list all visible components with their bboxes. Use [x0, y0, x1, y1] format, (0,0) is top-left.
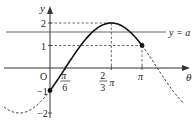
- y-tick-label-3: −2: [37, 108, 48, 119]
- x-tick-label-2pi3-num: 2: [100, 70, 105, 81]
- y-tick-label-1: 1: [41, 41, 46, 52]
- line-y-equals-a-label: y = a: [168, 27, 190, 38]
- y-axis-label: y: [39, 2, 45, 14]
- y-tick-label-0: 2: [41, 18, 46, 29]
- x-tick-label-pi6-den: 6: [62, 82, 67, 93]
- x-tick-label-pi6-num: π: [61, 70, 67, 81]
- x-tick-label-2pi3-pi: π: [109, 77, 115, 88]
- theta-axis-label: θ: [186, 71, 192, 83]
- y-tick-label-2: −1: [37, 86, 48, 97]
- y-axis-arrow-icon: [47, 6, 53, 14]
- x-tick-label-pi: π: [138, 71, 144, 82]
- endpoint-dot-1: [140, 43, 145, 48]
- x-tick-label-2pi3-den: 3: [100, 82, 105, 93]
- curve-dashed-segment-1: [142, 46, 183, 103]
- origin-label: O: [40, 71, 47, 82]
- graph-canvas: yθO21−1−2π623ππy = a: [0, 0, 196, 122]
- labels: yθO21−1−2π623ππy = a: [37, 2, 192, 119]
- endpoint-dot-0: [48, 88, 53, 93]
